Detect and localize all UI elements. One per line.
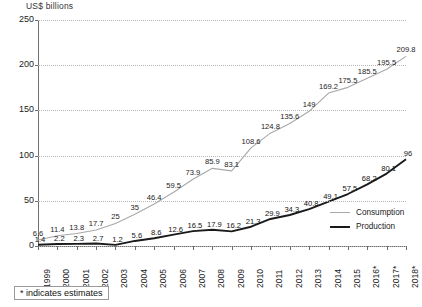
gridline: [38, 20, 406, 21]
x-tick-mark: [251, 246, 252, 250]
data-label: 85.9: [205, 157, 220, 166]
chart-container: US$ billions 050100150200250 6.611.413.8…: [0, 0, 422, 307]
data-label: 35: [131, 203, 139, 212]
data-label: 73.9: [186, 168, 201, 177]
data-label: 34.3: [284, 205, 299, 214]
data-label: 12.6: [168, 225, 183, 234]
data-label: 17.7: [89, 219, 104, 228]
x-tick-mark: [115, 246, 116, 250]
x-tick-mark: [290, 246, 291, 250]
data-label: 2.7: [93, 234, 104, 243]
x-tick-label: 2014: [333, 269, 343, 288]
chart-legend: Consumption Production: [330, 208, 404, 236]
x-tick-mark: [329, 246, 330, 250]
x-tick-mark: [174, 246, 175, 250]
x-tick-label: 2016*: [371, 266, 381, 288]
data-label: 8.6: [151, 228, 162, 237]
y-tick-label: 0: [6, 240, 34, 250]
data-label: 1.2: [112, 235, 123, 244]
data-label: 11.4: [50, 225, 64, 234]
gridline: [38, 65, 406, 66]
data-label: 16.2: [226, 221, 241, 230]
x-tick-label: 2007: [197, 269, 207, 288]
data-label: 29.9: [265, 209, 280, 218]
x-tick-label: 2011: [274, 270, 284, 288]
x-tick-mark: [135, 246, 136, 250]
data-label: 46.4: [147, 193, 162, 202]
legend-label-consumption: Consumption: [356, 208, 404, 217]
x-tick-mark: [367, 246, 368, 250]
y-tick-label: 150: [6, 104, 34, 114]
data-label: 83.1: [224, 160, 239, 169]
x-tick-mark: [57, 246, 58, 250]
data-label: 40.8: [304, 199, 319, 208]
footnote: * indicates estimates: [14, 286, 109, 300]
gridline: [38, 201, 406, 202]
legend-swatch-consumption-icon: [330, 212, 350, 213]
x-tick-label: 2015: [352, 269, 362, 288]
x-tick-label: 2003: [119, 269, 129, 288]
data-label: 2.2: [54, 234, 65, 243]
data-label: 57.5: [343, 184, 358, 193]
x-tick-mark: [193, 246, 194, 250]
data-label: 135.6: [280, 112, 299, 121]
x-tick-label: 2018*: [410, 266, 420, 288]
y-tick-label: 250: [6, 14, 34, 24]
data-label: 68.2: [362, 174, 377, 183]
data-label: 16.5: [188, 221, 203, 230]
y-tick-label: 50: [6, 195, 34, 205]
y-tick-label: 100: [6, 150, 34, 160]
data-label: 80.1: [381, 164, 396, 173]
x-tick-label: 2006: [178, 269, 188, 288]
data-label: 209.8: [396, 45, 415, 54]
legend-swatch-production-icon: [330, 226, 350, 228]
x-tick-label: 2004: [139, 269, 149, 288]
x-tick-mark: [212, 246, 213, 250]
data-label: 25: [111, 212, 119, 221]
data-label: 175.5: [338, 76, 357, 85]
x-tick-mark: [154, 246, 155, 250]
x-tick-mark: [232, 246, 233, 250]
data-label: 96: [404, 149, 412, 158]
data-label: 21.3: [246, 217, 261, 226]
y-tick-label: 200: [6, 59, 34, 69]
x-tick-mark: [406, 246, 407, 250]
x-tick-label: 2012: [294, 269, 304, 288]
legend-item-consumption: Consumption: [330, 208, 404, 217]
x-tick-mark: [270, 246, 271, 250]
x-tick-label: 2010: [255, 269, 265, 288]
x-tick-mark: [309, 246, 310, 250]
gridline: [38, 156, 406, 157]
legend-item-production: Production: [330, 222, 404, 231]
gridline: [38, 110, 406, 111]
x-tick-mark: [96, 246, 97, 250]
data-label: 5.6: [132, 231, 143, 240]
x-tick-mark: [387, 246, 388, 250]
data-label: 1.4: [35, 235, 46, 244]
x-tick-label: 2005: [158, 269, 168, 288]
x-tick-mark: [77, 246, 78, 250]
data-label: 49.1: [323, 192, 338, 201]
x-tick-label: 2017*: [391, 266, 401, 288]
data-label: 108.6: [242, 137, 261, 146]
data-label: 59.5: [166, 181, 181, 190]
y-axis-title: US$ billions: [26, 1, 73, 11]
data-label: 149: [303, 100, 316, 109]
y-axis-tick-labels: 050100150200250: [0, 20, 34, 246]
data-label: 17.9: [207, 220, 222, 229]
x-tick-label: 2009: [236, 269, 246, 288]
data-label: 2.3: [73, 234, 84, 243]
data-label: 124.8: [261, 122, 280, 131]
legend-label-production: Production: [356, 222, 395, 231]
data-label: 169.2: [319, 82, 338, 91]
data-label: 185.5: [358, 67, 377, 76]
data-label: 195.5: [377, 58, 396, 67]
x-tick-label: 2013: [313, 269, 323, 288]
x-tick-mark: [38, 246, 39, 250]
x-tick-mark: [348, 246, 349, 250]
x-tick-label: 2008: [216, 269, 226, 288]
data-label: 13.8: [69, 223, 84, 232]
